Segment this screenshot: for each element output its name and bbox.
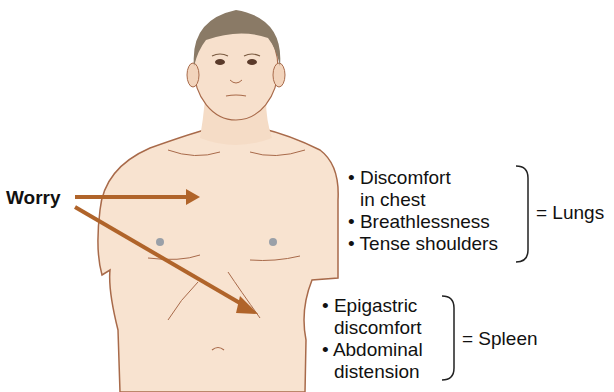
worry-label: Worry: [6, 187, 61, 209]
symptom: in chest: [348, 189, 498, 211]
symptom: • Tense shoulders: [348, 233, 498, 255]
spleen-organ-label: = Spleen: [462, 328, 538, 350]
right-nipple: [269, 238, 277, 246]
lungs-symptom-list: • Discomfort in chest • Breathlessness •…: [348, 167, 498, 255]
lungs-bracket: [516, 166, 528, 262]
spleen-symptom-list: • Epigastric discomfort • Abdominal dist…: [322, 295, 423, 383]
torso-shape: [98, 112, 338, 392]
symptom: • Breathlessness: [348, 211, 498, 233]
symptom: • Abdominal: [322, 339, 423, 361]
symptom: discomfort: [322, 317, 423, 339]
left-nipple: [156, 238, 164, 246]
worry-organ-diagram: Worry • Discomfort in chest • Breathless…: [0, 0, 614, 392]
lungs-organ-label: = Lungs: [536, 202, 604, 224]
symptom: • Discomfort: [348, 167, 498, 189]
spleen-bracket: [442, 296, 454, 380]
symptom: distension: [322, 361, 423, 383]
symptom: • Epigastric: [322, 295, 423, 317]
